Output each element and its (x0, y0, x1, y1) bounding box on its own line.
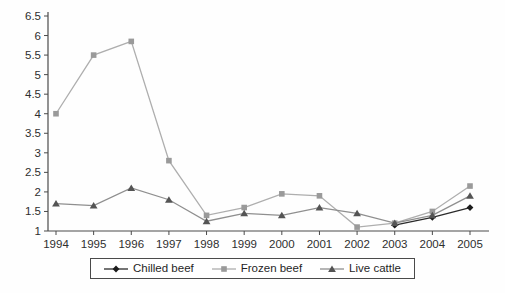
data-point-marker (91, 52, 97, 58)
legend: Chilled beefFrozen beefLive cattle (90, 258, 415, 279)
y-axis-tick-label: 5.5 (25, 49, 41, 61)
data-point-marker (466, 192, 474, 199)
y-axis-tick-label: 6.5 (25, 10, 41, 22)
y-axis-tick-label: 3 (35, 147, 41, 159)
legend-label: Live cattle (349, 263, 401, 275)
data-point-marker (53, 111, 59, 117)
data-point-marker (316, 204, 324, 211)
series-line-live-cattle (56, 188, 470, 223)
data-point-marker (467, 204, 474, 211)
legend-item-live-cattle: Live cattle (320, 263, 401, 275)
legend-item-frozen-beef: Frozen beef (212, 263, 302, 275)
x-axis-tick-label: 1995 (81, 238, 107, 250)
series-line-frozen-beef (56, 41, 470, 227)
data-point-marker (127, 184, 135, 191)
x-axis-tick-label: 1998 (194, 238, 220, 250)
chart-figure: 11.522.533.544.555.566.51994199519961997… (0, 0, 505, 293)
square-marker-icon (212, 264, 236, 274)
legend-label: Chilled beef (133, 263, 194, 275)
y-axis-tick-label: 2.5 (25, 166, 41, 178)
legend-item-chilled-beef: Chilled beef (104, 263, 194, 275)
y-axis-tick-label: 4 (35, 108, 42, 120)
x-axis-tick-label: 1994 (43, 238, 69, 250)
chart-svg: 11.522.533.544.555.566.51994199519961997… (0, 0, 505, 255)
triangle-marker-icon (320, 264, 344, 274)
x-axis-tick-label: 1997 (156, 238, 182, 250)
x-axis-tick-label: 1996 (118, 238, 144, 250)
data-point-marker (354, 224, 360, 230)
x-axis-tick-label: 2005 (457, 238, 483, 250)
x-axis-tick-label: 2003 (382, 238, 408, 250)
x-axis-tick-label: 1999 (231, 238, 257, 250)
x-axis-tick-label: 2000 (269, 238, 295, 250)
data-point-marker (317, 193, 323, 199)
y-axis-tick-label: 1 (35, 225, 41, 237)
diamond-marker-icon (104, 264, 128, 274)
data-point-marker (467, 183, 473, 189)
y-axis-tick-label: 2 (35, 186, 41, 198)
data-point-marker (204, 213, 210, 219)
y-axis-tick-label: 3.5 (25, 127, 41, 139)
x-axis-tick-label: 2001 (307, 238, 333, 250)
data-point-marker (166, 158, 172, 164)
y-axis-tick-label: 6 (35, 30, 41, 42)
y-axis-tick-label: 4.5 (25, 88, 41, 100)
legend-label: Frozen beef (241, 263, 302, 275)
data-point-marker (241, 205, 247, 211)
y-axis-tick-label: 1.5 (25, 205, 41, 217)
x-axis-tick-label: 2002 (344, 238, 370, 250)
data-point-marker (279, 191, 285, 197)
data-point-marker (128, 39, 134, 45)
x-axis-tick-label: 2004 (420, 238, 446, 250)
y-axis-tick-label: 5 (35, 69, 41, 81)
